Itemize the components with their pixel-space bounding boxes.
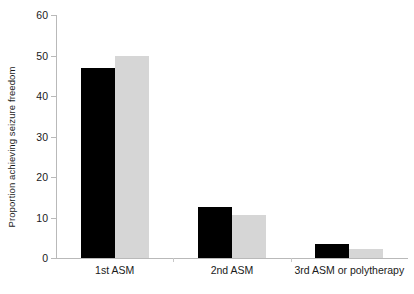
bar-dark-group-2 — [198, 207, 232, 258]
bar-light-group-3 — [349, 249, 383, 258]
y-axis-tick-40 — [51, 96, 56, 97]
bar-light-group-2 — [232, 215, 266, 258]
y-axis-tick-10 — [51, 218, 56, 219]
bar-dark-group-1 — [81, 68, 115, 258]
y-axis-tick-labels: 0102030405060 — [0, 0, 48, 294]
bar-light-group-1 — [115, 56, 149, 259]
x-axis-group-separator-1 — [173, 258, 174, 262]
y-axis-tick-30 — [51, 137, 56, 138]
y-axis-tick-label-40: 40 — [2, 90, 48, 102]
y-axis-tick-label-10: 10 — [2, 212, 48, 224]
x-axis-tick-label-2: 2nd ASM — [211, 264, 254, 276]
bar-chart: Proportion achieving seizure freedom 010… — [0, 0, 414, 294]
y-axis-tick-label-50: 50 — [2, 50, 48, 62]
x-axis-line — [56, 258, 408, 259]
y-axis-tick-label-20: 20 — [2, 171, 48, 183]
bar-dark-group-3 — [315, 244, 349, 258]
plot-area — [56, 15, 408, 258]
y-axis-tick-label-0: 0 — [2, 252, 48, 264]
x-axis-group-separator-2 — [291, 258, 292, 262]
y-axis-tick-20 — [51, 177, 56, 178]
y-axis-tick-label-60: 60 — [2, 9, 48, 21]
y-axis-tick-0 — [51, 258, 56, 259]
y-axis-tick-60 — [51, 15, 56, 16]
x-axis-tick-label-1: 1st ASM — [95, 264, 134, 276]
y-axis-tick-50 — [51, 56, 56, 57]
x-axis-tick-label-3: 3rd ASM or polytherapy — [294, 264, 404, 276]
y-axis-tick-label-30: 30 — [2, 131, 48, 143]
